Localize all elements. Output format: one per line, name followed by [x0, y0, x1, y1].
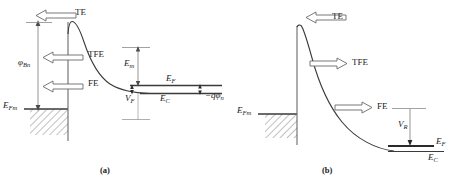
phibn-sub-a: Bn — [23, 61, 30, 68]
caption-b: (b) — [322, 165, 332, 175]
tfe-label-a: TFE — [88, 50, 104, 59]
em-label-a: Em — [124, 59, 134, 68]
ef-label-a: EF — [166, 74, 175, 83]
ec-main-b: E — [428, 152, 434, 162]
tfe-label-b: TFE — [352, 58, 368, 67]
fe-label-a: FE — [88, 79, 99, 88]
metal-hatch-b — [265, 114, 297, 138]
qphin-main-a: −qφ — [205, 90, 221, 100]
panel-b-graphics — [258, 12, 444, 152]
vf-main-a: V — [125, 93, 131, 103]
ef-label-b: EF — [436, 137, 445, 146]
efm-sub-a: Fm — [9, 104, 18, 111]
ef-main-b: E — [436, 136, 442, 146]
fe-arrow-a — [43, 81, 83, 92]
qphin-label-a: −qφn — [205, 91, 224, 100]
band-diagram-figure: TE TFE FE φBn EFm Em EF EC VF −qφn (a) T… — [0, 0, 456, 193]
qphin-arrow-down-a — [198, 91, 202, 96]
vr-label-b: VR — [398, 120, 407, 129]
tfe-arrow-a — [43, 52, 83, 63]
efm-label-a: EFm — [3, 101, 17, 110]
ec-sub-b: C — [434, 156, 438, 163]
fe-label-b: FE — [377, 102, 388, 111]
barrier-curve-b — [297, 25, 394, 151]
efm-main-a: E — [3, 100, 9, 110]
panel-a-graphics — [24, 10, 222, 141]
em-main-a: E — [124, 58, 130, 68]
em-sub-a: m — [130, 62, 135, 69]
metal-hatch-a — [30, 109, 68, 135]
vf-sub-a: F — [131, 97, 135, 104]
ec-sub-a: C — [166, 97, 170, 104]
te-arrow-a — [36, 10, 76, 21]
phibn-arrow-up-a — [36, 20, 41, 26]
ec-main-a: E — [160, 93, 166, 103]
qphin-sub-a: n — [221, 94, 224, 101]
te-label-b: TE — [332, 12, 343, 21]
vr-sub-b: R — [404, 123, 408, 130]
phibn-label-a: φBn — [18, 58, 30, 67]
ec-label-b: EC — [428, 153, 438, 162]
diagram-canvas — [0, 0, 456, 193]
ef-sub-b: F — [442, 140, 446, 147]
vr-main-b: V — [398, 119, 404, 129]
caption-a: (a) — [100, 165, 110, 175]
tfe-arrow-b — [310, 58, 347, 69]
efm-label-b: EFm — [237, 106, 251, 115]
ef-main-a: E — [166, 73, 172, 83]
efm-main-b: E — [237, 105, 243, 115]
fe-arrow-b — [335, 102, 372, 113]
vf-label-a: VF — [125, 94, 134, 103]
te-label-a: TE — [75, 8, 86, 17]
efm-sub-b: Fm — [243, 109, 252, 116]
em-arrow-up-a — [136, 46, 140, 52]
ec-label-a: EC — [160, 94, 170, 103]
ef-sub-a: F — [172, 77, 176, 84]
